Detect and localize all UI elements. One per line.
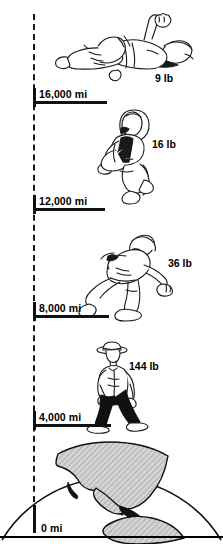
- tick-stub: [33, 505, 36, 533]
- tick-stub: [33, 302, 36, 321]
- figure-crouching: [88, 108, 164, 208]
- weight-label-36lb: 36 lb: [168, 257, 192, 269]
- weight-vs-altitude-diagram: 9 lb 16,000 mi: [0, 0, 223, 544]
- crouching-person-illustration: [88, 108, 164, 208]
- tick-label-12000: 12,000 mi: [39, 195, 87, 207]
- tick-label-16000: 16,000 mi: [39, 88, 87, 100]
- weight-label-16lb: 16 lb: [152, 138, 176, 150]
- tick-rule: [33, 101, 107, 104]
- weight-label-144lb: 144 lb: [129, 360, 159, 372]
- figure-leaning-striding: [70, 232, 180, 318]
- tick-rule: [33, 208, 105, 211]
- tick-rule: [33, 315, 109, 318]
- tick-label-8000: 8,000 mi: [39, 302, 81, 314]
- weight-label-9lb: 9 lb: [155, 72, 173, 84]
- tick-rule: [33, 424, 111, 427]
- tick-label-0: 0 mi: [41, 522, 62, 534]
- walking-person-illustration: [78, 340, 150, 430]
- tick-label-4000: 4,000 mi: [39, 411, 81, 423]
- figure-walking-upright: [78, 340, 150, 430]
- figure-floating-weightless: [52, 14, 204, 86]
- tick-stub: [33, 88, 36, 107]
- tick-stub: [33, 195, 36, 214]
- floating-person-illustration: [52, 14, 204, 86]
- ground-baseline: [0, 536, 223, 538]
- leaning-person-illustration: [70, 232, 180, 318]
- tick-stub: [33, 411, 36, 430]
